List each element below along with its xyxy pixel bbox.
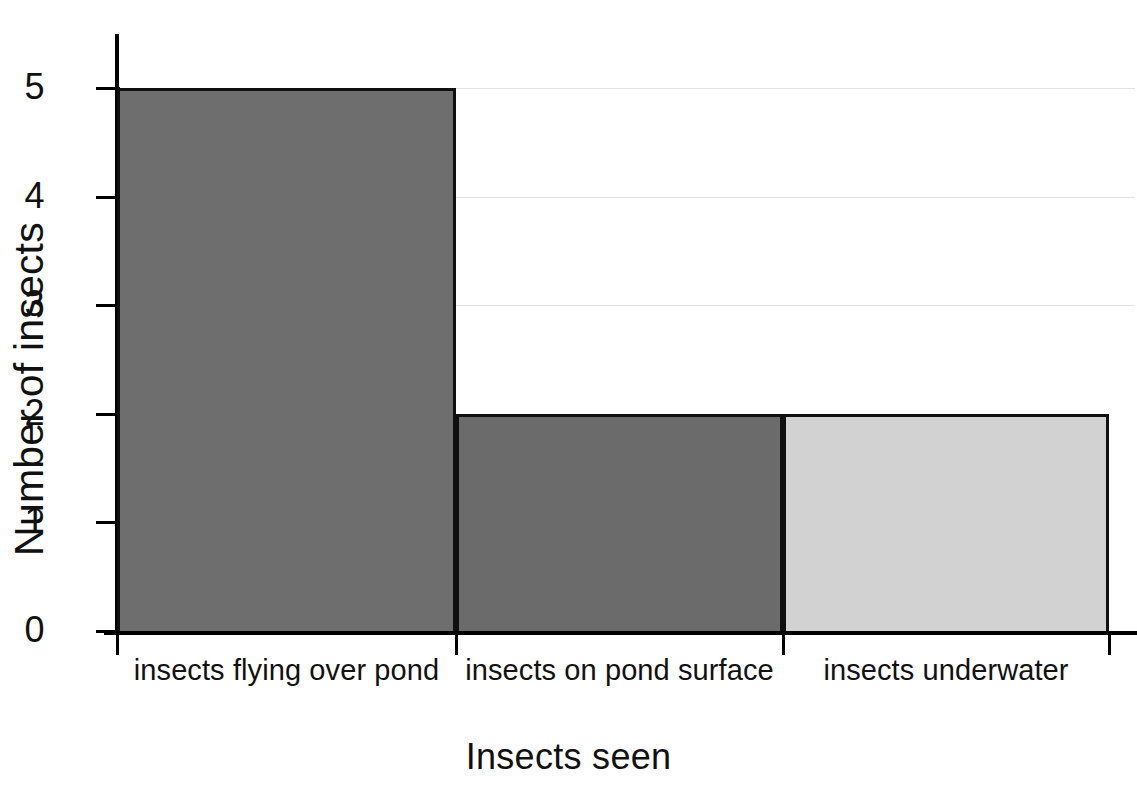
- x-axis-title: Insects seen: [0, 735, 1137, 779]
- y-tick-label-0: 0: [0, 612, 45, 648]
- y-tick-label-3: 3: [0, 286, 45, 322]
- bar-1: [456, 414, 783, 634]
- y-tick-label-5: 5: [0, 69, 45, 105]
- bar-2: [783, 414, 1109, 634]
- x-axis-line: [104, 631, 1137, 635]
- x-tick-label-1: insects on pond surface: [456, 652, 783, 688]
- y-tick-label-4: 4: [0, 178, 45, 214]
- x-tick-label-0: insects flying over pond: [117, 652, 456, 688]
- bar-chart: Number of insects 543210 insects flying …: [0, 0, 1137, 795]
- y-tick-label-2: 2: [0, 395, 45, 431]
- y-tick-label-1: 1: [0, 503, 45, 539]
- x-tick-label-2: insects underwater: [783, 652, 1109, 688]
- plot-area: [117, 34, 1137, 634]
- bar-0: [117, 88, 456, 634]
